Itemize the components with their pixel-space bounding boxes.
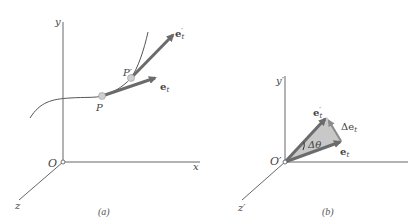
et-label: et — [160, 81, 169, 94]
diagram-canvas: y x z O P P′ et et′ (a) y′ z′ O′ et′ Δet… — [0, 0, 408, 223]
et-label-b: et — [340, 146, 349, 159]
origin-marker — [61, 160, 65, 164]
origin-label: O — [48, 157, 57, 170]
caption-b: (b) — [322, 206, 334, 218]
y-axis-label: y — [54, 16, 61, 27]
point-P-prime-label: P′ — [122, 67, 133, 78]
et-prime-label: et′ — [175, 27, 184, 41]
origin-prime-label: O′ — [270, 155, 282, 168]
z-prime-axis-label: z′ — [237, 202, 246, 213]
point-P — [99, 93, 106, 100]
origin-prime-marker — [283, 160, 287, 164]
caption-a: (a) — [98, 206, 110, 218]
panel-b: y′ z′ O′ et′ Δet et Δθ (b) — [237, 75, 408, 218]
point-P-label: P — [95, 102, 103, 113]
panel-a: y x z O P P′ et et′ (a) — [14, 16, 200, 218]
x-axis-label: x — [193, 161, 199, 172]
delta-et-label: Δet — [341, 121, 357, 134]
angle-delta-theta-label: Δθ — [307, 139, 321, 150]
z-axis-label: z — [14, 200, 21, 211]
unit-tangent-vector-et-prime — [131, 35, 173, 78]
y-prime-axis-label: y′ — [275, 75, 285, 86]
et-prime-label-b: et′ — [313, 106, 322, 120]
